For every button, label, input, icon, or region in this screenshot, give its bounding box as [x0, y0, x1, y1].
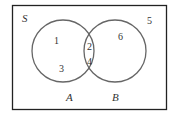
set-b-circle	[84, 20, 146, 82]
venn-diagram: S 5 1 3 2 4 6 A B	[0, 0, 174, 117]
intersection-element: 2	[87, 41, 92, 52]
set-a-label: A	[65, 91, 73, 103]
a-only-element: 1	[54, 35, 59, 46]
intersection-element: 4	[87, 56, 92, 67]
universe-label: S	[22, 12, 28, 24]
b-only-element: 6	[118, 31, 123, 42]
set-b-label: B	[112, 91, 119, 103]
a-only-element: 3	[59, 63, 64, 74]
outside-element: 5	[147, 15, 152, 26]
